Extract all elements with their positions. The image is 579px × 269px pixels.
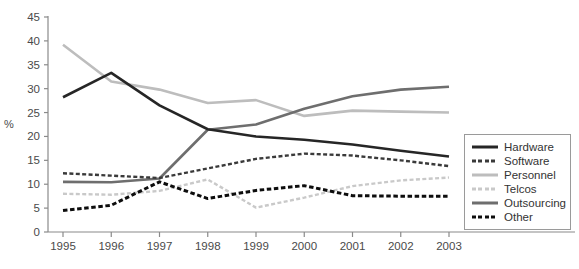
x-tick-label: 2000 bbox=[291, 240, 317, 252]
legend-item[interactable]: Personnel bbox=[472, 168, 564, 182]
y-tick-label: 15 bbox=[27, 154, 40, 166]
y-tick-label: 35 bbox=[27, 59, 40, 71]
legend-label: Software bbox=[504, 154, 549, 168]
y-tick-label: 40 bbox=[27, 35, 40, 47]
legend-label: Hardware bbox=[504, 140, 554, 154]
legend-swatch-icon bbox=[472, 212, 498, 222]
series-lines bbox=[63, 45, 449, 211]
legend-label: Outsourcing bbox=[504, 196, 566, 210]
y-tick-label: 45 bbox=[27, 11, 40, 23]
legend-swatch-icon bbox=[472, 198, 498, 208]
legend-swatch-icon bbox=[472, 156, 498, 166]
y-tick-label: 0 bbox=[34, 226, 40, 238]
legend-item[interactable]: Outsourcing bbox=[472, 196, 564, 210]
legend-item[interactable]: Hardware bbox=[472, 140, 564, 154]
legend-swatch-icon bbox=[472, 170, 498, 180]
y-axis: 051015202530354045 bbox=[27, 11, 48, 238]
y-tick-label: 30 bbox=[27, 83, 40, 95]
line-chart: % 051015202530354045 1995199619971998199… bbox=[0, 0, 579, 269]
y-tick-label: 20 bbox=[27, 130, 40, 142]
legend-item[interactable]: Other bbox=[472, 210, 564, 224]
legend-label: Telcos bbox=[504, 182, 537, 196]
series-line bbox=[63, 73, 449, 157]
x-axis: 199519961997199819992000200120022003 bbox=[48, 232, 575, 252]
chart-legend: HardwareSoftwarePersonnelTelcosOutsourci… bbox=[464, 134, 571, 230]
legend-label: Other bbox=[504, 210, 533, 224]
legend-item[interactable]: Software bbox=[472, 154, 564, 168]
y-tick-label: 25 bbox=[27, 107, 40, 119]
legend-label: Personnel bbox=[504, 168, 556, 182]
x-tick-label: 1997 bbox=[147, 240, 173, 252]
x-tick-label: 2001 bbox=[340, 240, 366, 252]
y-tick-label: 5 bbox=[34, 202, 40, 214]
legend-swatch-icon bbox=[472, 184, 498, 194]
legend-swatch-icon bbox=[472, 142, 498, 152]
x-tick-label: 1995 bbox=[50, 240, 76, 252]
series-line bbox=[63, 182, 449, 211]
x-tick-label: 1996 bbox=[98, 240, 124, 252]
legend-item[interactable]: Telcos bbox=[472, 182, 564, 196]
x-tick-label: 1999 bbox=[243, 240, 269, 252]
x-tick-label: 2003 bbox=[436, 240, 462, 252]
series-line bbox=[63, 154, 449, 178]
x-tick-label: 2002 bbox=[388, 240, 414, 252]
x-tick-label: 1998 bbox=[195, 240, 221, 252]
y-tick-label: 10 bbox=[27, 178, 40, 190]
